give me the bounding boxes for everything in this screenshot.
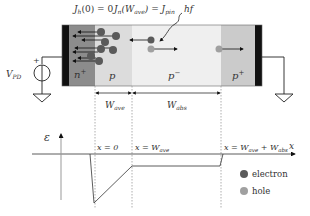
hole-icon <box>240 187 248 195</box>
legend-electron: electron <box>252 169 288 179</box>
electron-icon <box>240 170 248 178</box>
label-w-ave: Wave <box>105 100 125 111</box>
label-w-abs: Wabs <box>167 100 187 111</box>
ground-right <box>262 57 293 102</box>
pin-photodiode-diagram: n+ p p− p+ Jh(0) = 0 Jn(Wave) = Jpin hf <box>0 0 310 216</box>
label-photon: hf <box>184 4 195 14</box>
contact-left <box>62 25 69 86</box>
y-axis-label: ε <box>44 131 50 144</box>
marker-x-wave: x = Wave <box>135 143 170 153</box>
ground-icon-left <box>33 94 51 102</box>
field-curve <box>90 154 223 203</box>
contact-right <box>255 25 262 86</box>
label-jh0: Jh(0) = 0 <box>72 4 113 15</box>
marker-x0: x = 0 <box>97 143 118 152</box>
x-axis-label: x <box>289 141 294 151</box>
label-p: p <box>109 70 116 81</box>
legend-hole: hole <box>252 186 270 196</box>
label-jn: Jn(Wave) = Jpin <box>112 4 175 16</box>
legend: electron hole <box>240 169 288 196</box>
source-label: VPD <box>6 69 22 80</box>
marker-x-wave-wabs: x = Wave + Wabs <box>224 143 288 153</box>
ground-icon-right <box>275 94 293 102</box>
source-plus: + <box>33 56 40 65</box>
